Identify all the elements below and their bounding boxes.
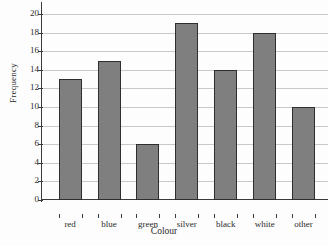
x-tick-mark	[136, 214, 137, 218]
y-tick-label: 12	[17, 82, 39, 92]
y-tick-label: 16	[17, 45, 39, 55]
x-tick-mark	[82, 214, 83, 218]
plot-area: 02468101214161820 redbluegreensilverblac…	[42, 14, 328, 200]
bar-other	[292, 107, 315, 200]
bar-red	[59, 79, 82, 200]
y-tick-label: 6	[17, 138, 39, 148]
y-tick-label: 14	[17, 64, 39, 74]
bar-black	[214, 70, 237, 200]
x-tick-mark	[214, 214, 215, 218]
bar-chart: Frequency 02468101214161820 redbluegreen…	[0, 0, 328, 246]
x-tick-mark	[159, 214, 160, 218]
x-tick-mark	[292, 214, 293, 218]
bar-blue	[98, 61, 121, 201]
y-tick-label: 4	[17, 157, 39, 167]
y-tick-label: 20	[17, 8, 39, 18]
bar-green	[136, 144, 159, 200]
x-tick-mark	[98, 214, 99, 218]
x-tick-mark	[121, 214, 122, 218]
bar-silver	[175, 23, 198, 200]
x-tick-mark	[59, 214, 60, 218]
x-tick-mark	[237, 214, 238, 218]
y-tick-label: 10	[17, 101, 39, 111]
y-tick-label: 8	[17, 120, 39, 130]
y-tick-label: 2	[17, 175, 39, 185]
x-axis-title: Colour	[0, 226, 328, 236]
y-tick-label: 18	[17, 27, 39, 37]
x-tick-mark	[276, 214, 277, 218]
bars-layer	[42, 14, 328, 200]
x-tick-mark	[315, 214, 316, 218]
bar-white	[253, 33, 276, 200]
x-tick-mark	[198, 214, 199, 218]
y-tick-mark	[38, 200, 43, 201]
y-tick-label: 0	[17, 194, 39, 204]
x-tick-mark	[253, 214, 254, 218]
x-tick-mark	[175, 214, 176, 218]
